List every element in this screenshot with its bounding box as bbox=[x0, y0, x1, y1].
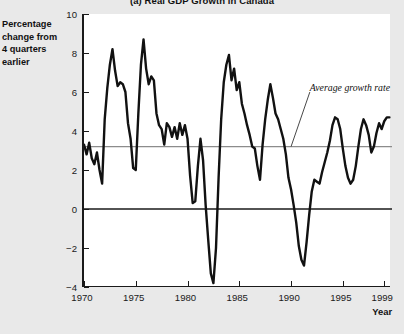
y-tick-mark bbox=[84, 209, 89, 210]
x-tick-mark bbox=[291, 281, 292, 286]
y-tick-label: −4 bbox=[55, 282, 77, 293]
data-series-line-0 bbox=[84, 39, 389, 283]
y-tick-label: 4 bbox=[55, 126, 77, 137]
x-tick-label: 1970 bbox=[71, 292, 92, 303]
x-axis-title: Year bbox=[372, 306, 392, 317]
x-tick-label: 1980 bbox=[175, 292, 196, 303]
annotation-leader-line-0 bbox=[291, 92, 310, 147]
y-tick-label: −2 bbox=[55, 243, 77, 254]
y-tick-mark bbox=[84, 170, 89, 171]
annotation-average-growth-rate: Average growth rate bbox=[310, 82, 390, 93]
y-tick-mark bbox=[84, 287, 89, 288]
x-tick-label: 1999 bbox=[372, 292, 393, 303]
x-tick-mark bbox=[84, 281, 85, 286]
y-tick-label: 10 bbox=[55, 9, 77, 20]
plot-inner bbox=[84, 14, 390, 286]
y-tick-label: 0 bbox=[55, 204, 77, 215]
x-tick-mark bbox=[239, 281, 240, 286]
x-tick-label: 1990 bbox=[278, 292, 299, 303]
chart-canvas bbox=[84, 14, 392, 287]
x-tick-label: 1985 bbox=[227, 292, 248, 303]
y-axis-title: Percentage change from 4 quarters earlie… bbox=[2, 18, 60, 68]
y-tick-label: 6 bbox=[55, 87, 77, 98]
y-tick-mark bbox=[84, 53, 89, 54]
y-tick-label: 8 bbox=[55, 48, 77, 59]
y-tick-mark bbox=[84, 14, 89, 15]
x-tick-mark bbox=[343, 281, 344, 286]
x-tick-mark bbox=[384, 281, 385, 286]
x-tick-mark bbox=[188, 281, 189, 286]
y-tick-mark bbox=[84, 92, 89, 93]
x-tick-label: 1995 bbox=[330, 292, 351, 303]
y-tick-mark bbox=[84, 248, 89, 249]
figure-real-gdp-growth-canada: (a) Real GDP Growth in Canada Percentage… bbox=[0, 0, 404, 334]
page-title: (a) Real GDP Growth in Canada bbox=[0, 0, 404, 6]
y-tick-label: 2 bbox=[55, 165, 77, 176]
x-tick-mark bbox=[136, 281, 137, 286]
y-tick-mark bbox=[84, 131, 89, 132]
plot-area bbox=[82, 14, 390, 287]
x-tick-label: 1975 bbox=[123, 292, 144, 303]
